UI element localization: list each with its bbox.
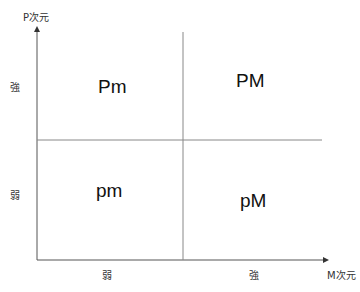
quadrant-top-right: PM: [236, 70, 265, 92]
y-tick-weak: 弱: [10, 187, 20, 202]
x-axis-label: M次元: [327, 267, 356, 282]
axes-and-dividers: [0, 0, 360, 292]
y-tick-strong: 強: [10, 79, 20, 94]
quadrant-bottom-left: pm: [96, 180, 122, 202]
x-tick-weak: 弱: [102, 267, 112, 282]
y-axis-label: P次元: [23, 9, 49, 24]
x-tick-strong: 強: [249, 267, 259, 282]
quadrant-bottom-right: pM: [240, 190, 266, 212]
quadrant-top-left: Pm: [98, 76, 127, 98]
